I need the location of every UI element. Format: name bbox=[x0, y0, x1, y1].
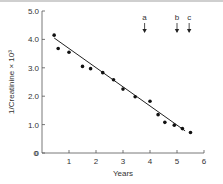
data-point bbox=[52, 33, 56, 37]
data-point bbox=[121, 87, 125, 91]
scatter-chart: 01.02.03.04.05.00123456 abc Years 1/Crea… bbox=[0, 0, 223, 184]
annotation-label-a: a bbox=[142, 13, 147, 22]
data-point bbox=[163, 121, 167, 125]
y-tick-label: 2.0 bbox=[28, 92, 40, 101]
data-points bbox=[52, 33, 192, 134]
arrow-head-icon bbox=[187, 29, 191, 33]
annotation-label-c: c bbox=[187, 13, 191, 22]
axes: 01.02.03.04.05.00123456 bbox=[28, 7, 207, 166]
x-tick-label: 1 bbox=[67, 157, 72, 166]
y-tick-label: 3.0 bbox=[28, 64, 40, 73]
data-point bbox=[67, 50, 71, 54]
y-tick-label: 5.0 bbox=[28, 7, 40, 16]
x-tick-label: 6 bbox=[202, 157, 207, 166]
regression-line bbox=[54, 38, 185, 131]
data-point bbox=[189, 131, 193, 135]
data-point bbox=[89, 67, 93, 71]
x-axis-label: Years bbox=[113, 169, 133, 178]
x-tick-label: 5 bbox=[175, 157, 180, 166]
annotation-arrows: abc bbox=[142, 13, 191, 33]
data-point bbox=[112, 78, 116, 82]
arrow-head-icon bbox=[142, 29, 146, 33]
data-point bbox=[156, 113, 160, 117]
data-point bbox=[56, 47, 60, 51]
data-point bbox=[133, 95, 137, 99]
arrow-head-icon bbox=[175, 29, 179, 33]
x-tick-label: 3 bbox=[121, 157, 126, 166]
y-tick-label: 1.0 bbox=[28, 121, 40, 130]
data-point bbox=[173, 123, 177, 127]
data-point bbox=[148, 100, 152, 104]
y-axis-label: 1/Creatinine × 10³ bbox=[7, 50, 16, 114]
data-point bbox=[81, 65, 85, 69]
data-point bbox=[101, 71, 105, 75]
regression-line-path bbox=[54, 38, 185, 131]
data-point bbox=[181, 127, 185, 131]
annotation-label-b: b bbox=[175, 13, 180, 22]
x-tick-label: 0 bbox=[34, 149, 39, 158]
y-tick-label: 4.0 bbox=[28, 35, 40, 44]
x-tick-label: 2 bbox=[94, 157, 99, 166]
x-tick-label: 4 bbox=[148, 157, 153, 166]
